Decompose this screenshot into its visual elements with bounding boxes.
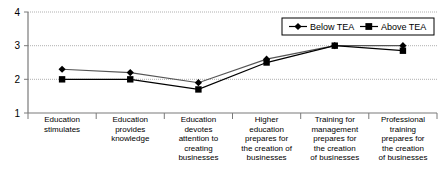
data-point-square bbox=[332, 42, 338, 48]
chart-container: 4 3 2 1 Below TEA A bbox=[0, 0, 441, 182]
data-point-square bbox=[195, 86, 201, 92]
x-category-label-0: Education stimulates bbox=[28, 115, 96, 181]
y-tick-label-4: 4 bbox=[14, 7, 20, 18]
data-point-square bbox=[127, 76, 133, 82]
x-category-label-3: Higher education prepares for the creati… bbox=[233, 115, 301, 181]
legend[interactable]: Below TEA Above TEA bbox=[282, 18, 434, 35]
legend-label-below-tea: Below TEA bbox=[310, 22, 354, 32]
y-tick-label-2: 2 bbox=[14, 74, 20, 85]
x-category-label-5: Professional training prepares for the c… bbox=[369, 115, 437, 181]
square-icon bbox=[365, 23, 372, 30]
y-tick-label-1: 1 bbox=[14, 108, 20, 119]
data-point-square bbox=[263, 59, 269, 65]
x-axis-category-labels: Education stimulates Education provides … bbox=[28, 115, 437, 181]
y-tick-label-3: 3 bbox=[14, 40, 20, 51]
x-category-label-4: Training for management prepares for the… bbox=[301, 115, 369, 181]
legend-label-above-tea: Above TEA bbox=[381, 22, 426, 32]
data-point-square bbox=[59, 76, 65, 82]
data-point-square bbox=[400, 48, 406, 54]
x-category-label-1: Education provides knowledge bbox=[96, 115, 164, 181]
x-category-label-2: Education devotes attention to creating … bbox=[164, 115, 232, 181]
